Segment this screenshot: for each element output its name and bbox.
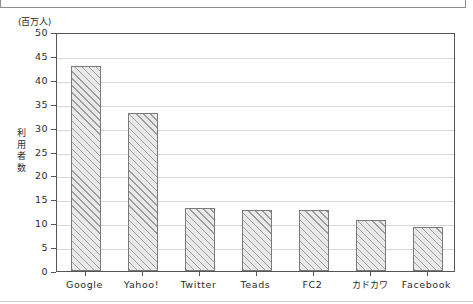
y-axis-tick	[51, 153, 56, 154]
page-bottom-rule	[0, 301, 473, 302]
x-axis-tick	[427, 272, 428, 276]
gridline	[57, 130, 454, 131]
x-axis-tick	[256, 272, 257, 276]
x-axis-tick-label: Facebook	[398, 279, 455, 291]
y-axis-tick-label: 15	[22, 195, 48, 205]
y-axis-tick-label: 20	[22, 171, 48, 181]
x-axis-tick-label: Yahoo!	[113, 279, 170, 291]
y-axis-tick-label: 45	[22, 52, 48, 62]
y-axis-tick	[51, 105, 56, 106]
x-axis-tick	[85, 272, 86, 276]
x-axis-tick-label: Twitter	[170, 279, 227, 291]
x-axis-tick	[313, 272, 314, 276]
plot-area	[56, 33, 455, 272]
y-axis-tick-label: 40	[22, 76, 48, 86]
gridline	[57, 106, 454, 107]
y-axis-tick	[51, 176, 56, 177]
bar	[185, 208, 215, 271]
gridline	[57, 82, 454, 83]
y-axis-tick-label: 25	[22, 148, 48, 158]
y-axis-tick	[51, 57, 56, 58]
y-axis-tick	[51, 248, 56, 249]
y-axis-tick-label: 50	[22, 28, 48, 38]
x-axis-tick-label: Teads	[227, 279, 284, 291]
x-axis-tick-label: カドカワ	[341, 279, 398, 291]
x-axis-tick-label: Google	[56, 279, 113, 291]
y-axis-tick-label: 10	[22, 219, 48, 229]
bar	[71, 66, 101, 271]
y-axis-tick	[51, 200, 56, 201]
y-axis-tick	[51, 224, 56, 225]
y-axis-tick	[51, 272, 56, 273]
x-axis-tick	[370, 272, 371, 276]
bar	[242, 210, 272, 271]
bar	[413, 227, 443, 271]
y-axis-tick-label: 35	[22, 100, 48, 110]
bar	[299, 210, 329, 271]
bar-chart: (百万人) 利 用 者 数 50454035302520151050Google…	[0, 0, 473, 304]
x-axis-tick	[142, 272, 143, 276]
bar	[128, 113, 158, 271]
gridline	[57, 177, 454, 178]
y-axis-tick-label: 30	[22, 124, 48, 134]
y-axis-tick-label: 5	[22, 243, 48, 253]
x-axis-tick-label: FC2	[284, 279, 341, 291]
gridline	[57, 201, 454, 202]
y-axis-tick	[51, 33, 56, 34]
y-axis-tick-label: 0	[22, 267, 48, 277]
y-axis-tick	[51, 129, 56, 130]
x-axis-tick	[199, 272, 200, 276]
gridline	[57, 154, 454, 155]
y-axis-tick	[51, 81, 56, 82]
bar	[356, 220, 386, 271]
gridline	[57, 58, 454, 59]
